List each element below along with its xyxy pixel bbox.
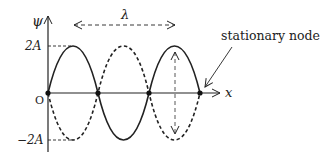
node-point <box>146 90 151 95</box>
tick-label-2a: 2A <box>24 39 42 53</box>
stationary-node-label: stationary node <box>221 28 320 43</box>
annotation-pointer <box>205 47 232 87</box>
tick-label-neg2a: −2A <box>17 133 44 147</box>
wavelength-label: λ <box>120 7 129 22</box>
node-point <box>95 90 100 95</box>
node-point <box>197 90 202 95</box>
origin-label: O <box>35 94 44 107</box>
y-axis-label: ψ <box>32 13 44 29</box>
node-point <box>45 90 50 95</box>
standing-wave-diagram: ψ x O 2A −2A λ stationary node <box>0 0 327 156</box>
x-axis-label: x <box>225 85 233 100</box>
